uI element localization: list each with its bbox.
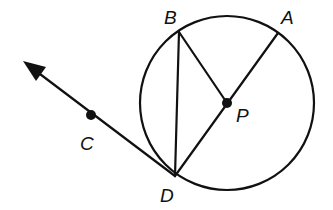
label-d: D: [160, 185, 174, 206]
point-p-dot: [222, 98, 232, 108]
arrowhead-icon: [23, 61, 46, 81]
label-c: C: [80, 133, 94, 154]
label-a: A: [280, 7, 294, 28]
segment-bp: [179, 32, 227, 103]
point-c-dot: [86, 110, 96, 120]
geometry-diagram: B A P C D: [0, 0, 333, 210]
ray-dc: [32, 68, 175, 176]
label-b: B: [164, 7, 177, 28]
label-p: P: [236, 105, 249, 126]
segment-bd: [175, 32, 179, 176]
